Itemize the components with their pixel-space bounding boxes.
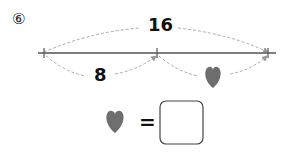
answer-input[interactable] [162,103,205,144]
total-arc [44,28,140,52]
heart-icon [106,111,123,133]
equals-sign: = [139,110,156,134]
problem-number: ⑥ [12,10,25,28]
left-segment-label: 8 [94,64,107,85]
left-arc [46,56,85,76]
right-arc [159,56,198,76]
heart-icon [205,67,220,88]
total-label: 16 [148,14,173,35]
